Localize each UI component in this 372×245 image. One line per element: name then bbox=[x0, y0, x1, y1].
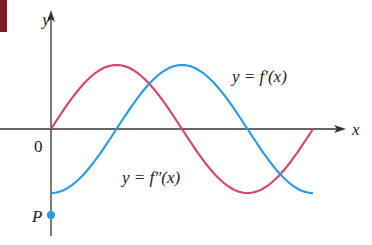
f-prime-label: y = f′(x) bbox=[230, 67, 287, 86]
point-p-label: P bbox=[31, 207, 42, 226]
x-axis-label: x bbox=[351, 120, 360, 139]
y-axis-label: y bbox=[40, 10, 50, 29]
graph: y x 0 P y = f′(x) y = f″(x) bbox=[0, 0, 372, 245]
f-double-prime-label: y = f″(x) bbox=[120, 168, 181, 187]
point-p bbox=[47, 211, 55, 219]
origin-label: 0 bbox=[34, 137, 43, 156]
